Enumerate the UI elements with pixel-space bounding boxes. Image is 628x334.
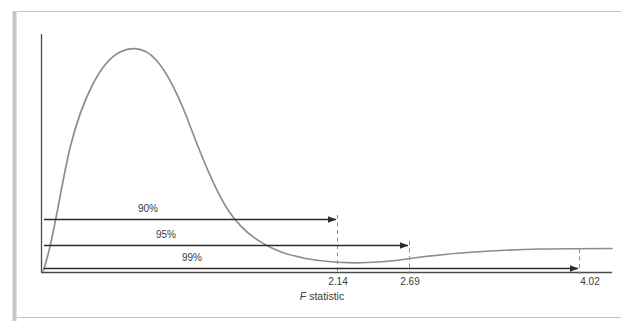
- annotation-label-99: 99%: [182, 252, 202, 263]
- x-axis-label-text: statistic: [306, 290, 344, 302]
- x-tick-label-4-02: 4.02: [580, 276, 600, 287]
- x-tick-label-2-14: 2.14: [328, 276, 348, 287]
- x-axis-label: F statistic: [300, 290, 344, 302]
- figure-page: 90% 95% 99% 2.14 2.69 4.02 F statistic: [0, 0, 628, 334]
- annotation-label-95: 95%: [156, 229, 176, 240]
- annotation-label-90: 90%: [138, 203, 158, 214]
- f-distribution-chart: 90% 95% 99% 2.14 2.69 4.02 F statistic: [0, 0, 628, 334]
- f-density-curve: [43, 49, 612, 271]
- x-tick-label-2-69: 2.69: [400, 276, 420, 287]
